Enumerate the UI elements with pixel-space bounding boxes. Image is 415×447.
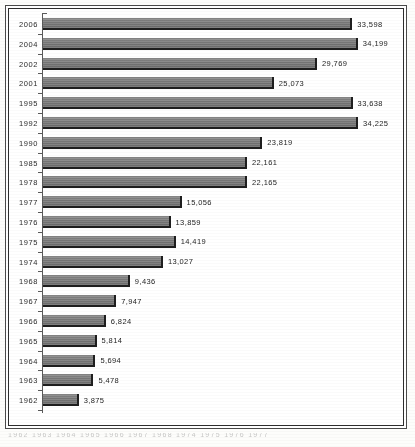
category-label: 2001 <box>11 74 38 93</box>
category-label: 1965 <box>11 332 38 351</box>
bar-row: 197715,056 <box>11 193 401 212</box>
bar-row: 200434,199 <box>11 35 401 54</box>
bar-row: 197413,027 <box>11 253 401 272</box>
bar[interactable] <box>43 58 317 70</box>
category-label: 1966 <box>11 312 38 331</box>
bar[interactable] <box>43 394 79 406</box>
category-label: 1992 <box>11 114 38 133</box>
bar-row: 200229,769 <box>11 55 401 74</box>
value-label: 5,814 <box>102 336 123 345</box>
bar-row: 200633,598 <box>11 15 401 34</box>
bar-and-value: 33,638 <box>43 97 383 109</box>
bar-and-value: 7,947 <box>43 295 142 307</box>
value-label: 6,824 <box>111 317 132 326</box>
bar-and-value: 22,165 <box>43 176 277 188</box>
bar[interactable] <box>43 196 182 208</box>
bar-and-value: 6,824 <box>43 315 132 327</box>
category-label: 1985 <box>11 154 38 173</box>
bar-row: 198522,161 <box>11 154 401 173</box>
bar-and-value: 22,161 <box>43 157 277 169</box>
bar-row: 19645,694 <box>11 352 401 371</box>
category-label: 1964 <box>11 352 38 371</box>
bar-row: 19623,875 <box>11 391 401 410</box>
category-label: 2002 <box>11 55 38 74</box>
category-label: 1977 <box>11 193 38 212</box>
category-label: 1968 <box>11 272 38 291</box>
value-label: 5,478 <box>98 376 119 385</box>
category-label: 1974 <box>11 253 38 272</box>
bar-row: 197514,419 <box>11 233 401 252</box>
category-label: 2004 <box>11 35 38 54</box>
axis-top-cap <box>42 13 47 14</box>
bar-row: 19689,436 <box>11 272 401 291</box>
bar-and-value: 5,694 <box>43 355 121 367</box>
bar-and-value: 29,769 <box>43 58 347 70</box>
bar[interactable] <box>43 315 106 327</box>
bar-and-value: 5,478 <box>43 374 119 386</box>
value-label: 33,638 <box>358 99 383 108</box>
bar-row: 19635,478 <box>11 371 401 390</box>
bar-row: 19655,814 <box>11 332 401 351</box>
value-label: 14,419 <box>181 237 206 246</box>
category-label: 1967 <box>11 292 38 311</box>
bar-row: 199234,225 <box>11 114 401 133</box>
value-label: 29,769 <box>322 59 347 68</box>
bar[interactable] <box>43 216 171 228</box>
value-label: 22,161 <box>252 158 277 167</box>
bar[interactable] <box>43 176 247 188</box>
bar-and-value: 13,859 <box>43 216 201 228</box>
value-label: 33,598 <box>357 20 382 29</box>
bar-and-value: 23,819 <box>43 137 293 149</box>
bar-row: 197613,859 <box>11 213 401 232</box>
bar[interactable] <box>43 18 352 30</box>
value-label: 34,225 <box>363 119 388 128</box>
bar[interactable] <box>43 355 95 367</box>
bar-row: 197822,165 <box>11 173 401 192</box>
caption-text: 1962 1963 1964 1965 1966 1967 1968 1974 … <box>8 433 269 438</box>
axis-tick <box>38 410 43 411</box>
bar-row: 199023,819 <box>11 134 401 153</box>
plot-area: 200633,598200434,199200229,769200125,073… <box>11 11 401 423</box>
bar-and-value: 25,073 <box>43 77 304 89</box>
bar-and-value: 9,436 <box>43 275 156 287</box>
category-label: 1975 <box>11 233 38 252</box>
category-label: 1990 <box>11 134 38 153</box>
bar-and-value: 34,199 <box>43 38 388 50</box>
value-label: 25,073 <box>279 79 304 88</box>
bar-and-value: 14,419 <box>43 236 206 248</box>
bar-and-value: 33,598 <box>43 18 383 30</box>
category-label: 1962 <box>11 391 38 410</box>
value-label: 7,947 <box>121 297 142 306</box>
bar-row: 199533,638 <box>11 94 401 113</box>
value-label: 3,875 <box>84 396 105 405</box>
bar[interactable] <box>43 157 247 169</box>
bar-row: 19677,947 <box>11 292 401 311</box>
bar[interactable] <box>43 335 97 347</box>
bar[interactable] <box>43 236 176 248</box>
bar-and-value: 13,027 <box>43 256 193 268</box>
caption-strip: 1962 1963 1964 1965 1966 1967 1968 1974 … <box>0 433 415 447</box>
bar[interactable] <box>43 97 353 109</box>
value-label: 23,819 <box>267 138 292 147</box>
bar-and-value: 34,225 <box>43 117 388 129</box>
value-label: 15,056 <box>187 198 212 207</box>
bar-row: 200125,073 <box>11 74 401 93</box>
value-label: 5,694 <box>100 356 121 365</box>
category-label: 1963 <box>11 371 38 390</box>
category-label: 1978 <box>11 173 38 192</box>
bar[interactable] <box>43 256 163 268</box>
category-label: 1976 <box>11 213 38 232</box>
value-label: 13,859 <box>176 218 201 227</box>
value-label: 22,165 <box>252 178 277 187</box>
bar-row: 19666,824 <box>11 312 401 331</box>
bar[interactable] <box>43 117 358 129</box>
bar[interactable] <box>43 374 93 386</box>
bar[interactable] <box>43 77 274 89</box>
value-label: 9,436 <box>135 277 156 286</box>
bar[interactable] <box>43 38 358 50</box>
bar[interactable] <box>43 275 130 287</box>
bar[interactable] <box>43 295 116 307</box>
bar-and-value: 5,814 <box>43 335 122 347</box>
bar[interactable] <box>43 137 262 149</box>
value-label: 34,199 <box>363 39 388 48</box>
